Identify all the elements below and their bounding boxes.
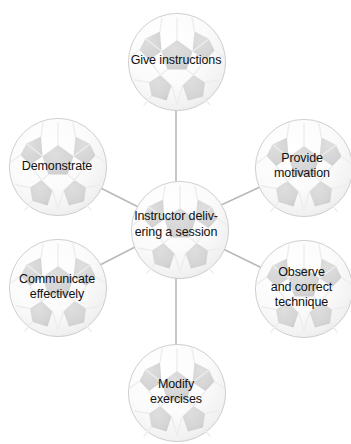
node-hit-observe-and-correct-technique[interactable]: [254, 239, 351, 337]
node-hit-modify-exercises[interactable]: [127, 343, 225, 441]
node-hit-give-instructions[interactable]: [127, 12, 225, 110]
node-hit-instructor-delivering-a-session[interactable]: [130, 180, 222, 272]
node-hit-demonstrate[interactable]: [8, 117, 106, 215]
node-hit-provide-motivation[interactable]: [254, 118, 351, 216]
node-hit-communicate-effectively[interactable]: [8, 238, 106, 336]
